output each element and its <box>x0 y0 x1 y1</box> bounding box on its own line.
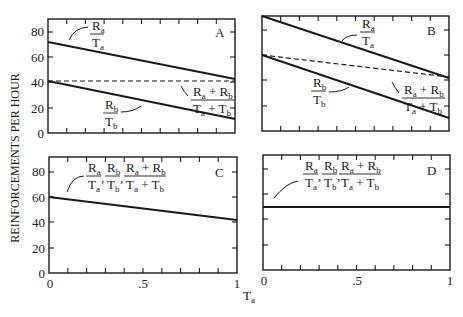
y-axis-label: REINFORCEMENTS PER HOUR <box>8 73 22 242</box>
panel-a-rb-tb-label: Rb Tb <box>103 97 141 131</box>
panel-b-combined-label: Ra + Rb Ta + Tb <box>392 82 445 116</box>
svg-text:Ta + Tb: Ta + Tb <box>193 101 232 118</box>
panel-a-ytick-labels: 80 60 40 20 0 <box>31 24 44 141</box>
panel-b-ra-ta-line <box>262 16 449 78</box>
svg-text:Ra: Ra <box>92 18 105 35</box>
arrow-icon <box>181 86 188 96</box>
arrow-icon <box>121 106 141 112</box>
panel-c-ytick-labels: 80 60 40 20 0 <box>32 164 45 281</box>
svg-text:Ta: Ta <box>305 175 317 192</box>
svg-text:Ta: Ta <box>92 35 104 52</box>
arrow-icon <box>67 176 84 192</box>
panel-a-ra-ta-line <box>48 42 235 79</box>
panel-c-xtick-labels: 0 .5 1 <box>47 276 241 291</box>
svg-text:,: , <box>120 170 123 185</box>
svg-text:Tb: Tb <box>324 175 337 192</box>
svg-text:Tb: Tb <box>313 92 326 109</box>
svg-text:Ra + Rb: Ra + Rb <box>341 158 381 175</box>
arrow-icon <box>392 82 399 93</box>
svg-text:,: , <box>318 168 321 183</box>
svg-text:0: 0 <box>39 266 46 281</box>
svg-text:1: 1 <box>234 276 241 291</box>
panel-b-combined-line <box>262 55 449 77</box>
svg-text:60: 60 <box>31 50 44 65</box>
panel-d-xtick-labels: 0 .5 1 <box>261 273 454 288</box>
svg-text:80: 80 <box>32 164 45 179</box>
svg-text:20: 20 <box>32 241 45 256</box>
svg-text:40: 40 <box>31 75 44 90</box>
panel-c-letter: C <box>215 165 224 180</box>
svg-text:Rb: Rb <box>105 97 119 114</box>
svg-text:Ra: Ra <box>362 16 375 33</box>
svg-text:Ta + Tb: Ta + Tb <box>341 175 380 192</box>
panel-a: 80 60 40 20 0 A Ra Ta Rb Tb Ra + Rb Ta + <box>31 18 235 141</box>
figure: REINFORCEMENTS PER HOUR 80 60 40 20 0 <box>0 0 463 317</box>
panel-b-letter: B <box>427 23 436 38</box>
panel-b: B Ra Ta Rb Tb Ra + Rb Ta + Tb <box>262 16 449 131</box>
svg-text:0: 0 <box>261 273 268 288</box>
svg-text:1: 1 <box>447 273 454 288</box>
svg-text:40: 40 <box>32 215 45 230</box>
panel-a-letter: A <box>215 25 225 40</box>
arrow-icon <box>69 27 88 40</box>
svg-text:Ta + Tb: Ta + Tb <box>404 99 443 116</box>
panel-c-combined-label: Ra Ta , Rb Tb , Ra + Rb Ta + Tb <box>67 160 166 194</box>
panel-b-rb-tb-label: Rb Tb <box>311 75 349 109</box>
svg-text:Ra: Ra <box>88 160 101 177</box>
svg-text:Rb: Rb <box>313 75 327 92</box>
arrow-icon <box>329 87 349 92</box>
panel-c-line <box>49 197 237 220</box>
panel-d-letter: D <box>427 163 436 178</box>
svg-text:Rb: Rb <box>107 160 121 177</box>
panel-d-combined-label: Ra Ta , Rb Tb , Ra + Rb Ta + Tb <box>274 158 381 198</box>
svg-text:.5: .5 <box>138 276 148 291</box>
svg-text:,: , <box>101 170 104 185</box>
svg-text:20: 20 <box>31 101 44 116</box>
svg-text:Ra: Ra <box>305 158 318 175</box>
svg-text:Tb: Tb <box>107 177 120 194</box>
svg-text:Tb: Tb <box>105 114 118 131</box>
svg-text:0: 0 <box>38 126 45 141</box>
svg-text:0: 0 <box>47 276 54 291</box>
svg-text:80: 80 <box>31 24 44 39</box>
svg-text:.5: .5 <box>352 273 362 288</box>
svg-text:60: 60 <box>32 190 45 205</box>
svg-text:Ta: Ta <box>88 177 100 194</box>
panel-c: 80 60 40 20 0 0 .5 1 C Ra Ta , Rb Tb , R… <box>32 157 240 291</box>
x-axis-label: Ta <box>243 288 255 305</box>
arrow-icon <box>342 35 357 41</box>
svg-text:Rb: Rb <box>324 158 338 175</box>
svg-text:Ra + Rb: Ra + Rb <box>404 82 444 99</box>
svg-text:Ra + Rb: Ra + Rb <box>193 84 233 101</box>
panel-d: 0 .5 1 D Ra Ta , Rb Tb , Ra + Rb Ta + Tb <box>261 155 454 288</box>
svg-text:Ra + Rb: Ra + Rb <box>126 160 166 177</box>
svg-text:,: , <box>337 168 340 183</box>
svg-text:Ta: Ta <box>362 33 374 50</box>
arrow-icon <box>274 181 298 198</box>
svg-text:Ta + Tb: Ta + Tb <box>126 177 165 194</box>
panel-a-combined-label: Ra + Rb Ta + Tb <box>181 84 234 118</box>
